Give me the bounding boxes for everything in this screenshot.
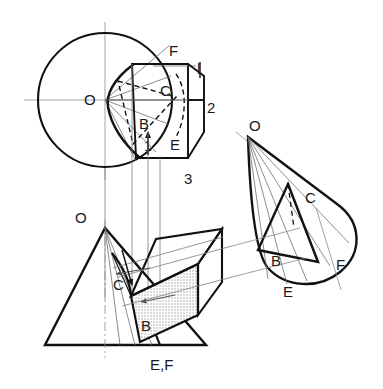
pictorial-label-B: B: [271, 252, 281, 269]
front-view-label-O: O: [75, 209, 87, 226]
technical-drawing-canvas: O F C B E 1 l 2 3: [0, 0, 383, 389]
top-view-label-B: B: [139, 115, 149, 132]
top-view-radial-generators: [105, 45, 172, 161]
pictorial-label-F: F: [336, 256, 345, 273]
top-view-group: O F C B E 1: [24, 22, 196, 180]
top-view-hidden-arc: [176, 74, 184, 137]
front-view-label-B: B: [141, 317, 151, 334]
aux-view-wedge-outline: [188, 64, 204, 158]
aux-view-label-2: 2: [207, 99, 215, 116]
aux-view-label-1: l: [197, 60, 200, 77]
pictorial-label-C: C: [305, 189, 316, 206]
pictorial-label-O: O: [249, 117, 261, 134]
pictorial-view-group: O C B E F: [232, 117, 357, 300]
pictorial-label-E: E: [283, 283, 293, 300]
drawing-sheet: O F C B E 1 l 2 3: [0, 0, 383, 389]
front-view-label-C: C: [113, 276, 124, 293]
top-view-label-C: C: [160, 82, 171, 99]
aux-view-label-3: 3: [184, 170, 192, 187]
front-view-group: O C B E,F: [45, 209, 236, 373]
top-view-label-E: E: [170, 136, 180, 153]
front-view-label-EF: E,F: [150, 356, 173, 373]
top-view-label-F: F: [169, 42, 178, 59]
top-view-label-O: O: [84, 91, 96, 108]
